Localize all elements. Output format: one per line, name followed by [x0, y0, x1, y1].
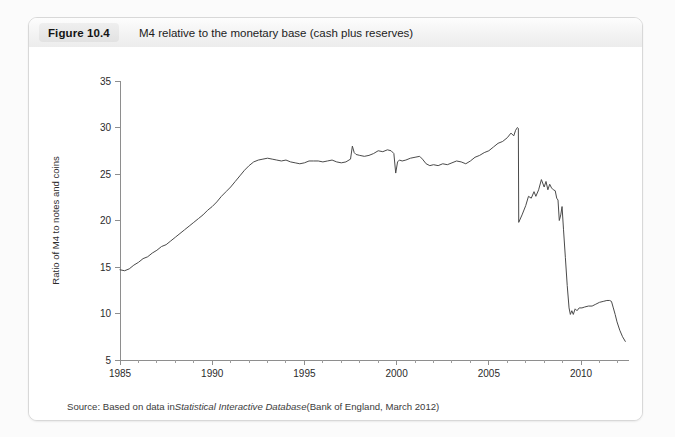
svg-text:2000: 2000: [386, 368, 409, 379]
source-note: Source: Based on data in Statistical Int…: [29, 393, 642, 420]
figure-number-badge: Figure 10.4: [39, 23, 119, 42]
svg-text:25: 25: [100, 169, 112, 180]
source-italic-title: Statistical Interactive Database: [175, 401, 307, 412]
chart-plot-area: 5101520253035198519901995200020052010Rat…: [29, 47, 642, 393]
source-suffix: (Bank of England, March 2012): [306, 401, 439, 412]
svg-text:5: 5: [105, 355, 111, 366]
svg-text:15: 15: [100, 262, 112, 273]
figure-header: Figure 10.4 M4 relative to the monetary …: [29, 18, 642, 48]
svg-text:30: 30: [100, 122, 112, 133]
data-series-line: [120, 128, 625, 342]
screenshot-root: Figure 10.4 M4 relative to the monetary …: [0, 0, 675, 437]
figure-caption: M4 relative to the monetary base (cash p…: [139, 23, 413, 42]
svg-text:10: 10: [100, 308, 112, 319]
figure-card: Figure 10.4 M4 relative to the monetary …: [28, 17, 643, 421]
svg-text:2010: 2010: [570, 368, 593, 379]
svg-text:1995: 1995: [293, 368, 316, 379]
svg-text:1990: 1990: [201, 368, 224, 379]
svg-text:35: 35: [100, 76, 112, 87]
source-prefix: Source: Based on data in: [67, 401, 175, 412]
svg-text:2005: 2005: [478, 368, 501, 379]
svg-text:20: 20: [100, 215, 112, 226]
svg-text:1985: 1985: [109, 368, 132, 379]
line-chart: 5101520253035198519901995200020052010Rat…: [29, 47, 642, 393]
svg-text:Ratio of M4 to notes and coins: Ratio of M4 to notes and coins: [50, 156, 61, 285]
